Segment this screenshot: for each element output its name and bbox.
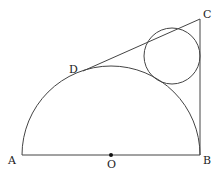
label-A: A [8, 155, 16, 166]
label-B: B [203, 155, 211, 166]
center-point-O [109, 153, 113, 157]
geometry-figure [0, 0, 217, 170]
inscribed-circle [144, 28, 200, 84]
label-D: D [69, 64, 78, 75]
label-O: O [107, 159, 116, 170]
label-C: C [203, 9, 211, 20]
tangent-DC [83, 19, 200, 71]
semicircle-arc [22, 66, 200, 155]
